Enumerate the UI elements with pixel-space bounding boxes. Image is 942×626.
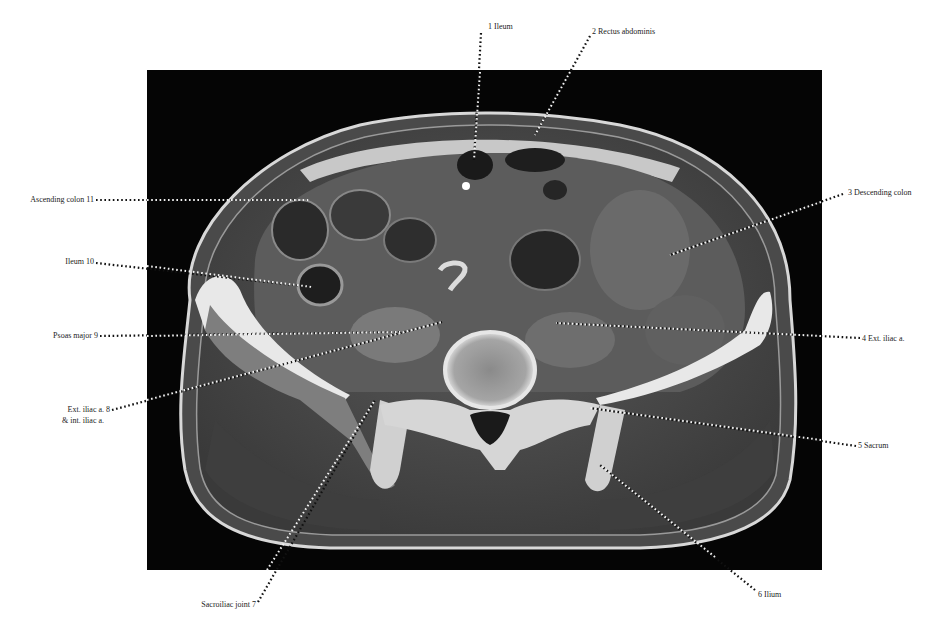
ct-anatomy-drawing bbox=[0, 0, 942, 626]
ct-figure: 1 Ileum 2 Rectus abdominis 3 Descending … bbox=[0, 0, 942, 626]
label-9-psoas-major: Psoas major 9 bbox=[10, 331, 98, 341]
label-5-sacrum: 5 Sacrum bbox=[858, 441, 888, 451]
label-3-descending-colon: 3 Descending colon bbox=[848, 188, 912, 198]
label-11-ascending-colon: Ascending colon 11 bbox=[0, 195, 94, 205]
label-4-ext-iliac-artery: 4 Ext. iliac a. bbox=[862, 334, 904, 344]
label-8-int-iliac-artery: & int. iliac a. bbox=[62, 416, 104, 426]
label-8-ext-iliac-artery: Ext. iliac a. 8 bbox=[20, 405, 110, 415]
label-1-ileum: 1 Ileum bbox=[488, 22, 513, 32]
label-6-ilium: 6 Ilium bbox=[758, 590, 781, 600]
label-7-sacroiliac-joint: Sacroiliac joint 7 bbox=[150, 600, 256, 610]
label-10-ileum: Ileum 10 bbox=[10, 257, 94, 267]
vertebral-body-shape bbox=[445, 332, 535, 408]
label-2-rectus-abdominis: 2 Rectus abdominis bbox=[592, 27, 655, 37]
